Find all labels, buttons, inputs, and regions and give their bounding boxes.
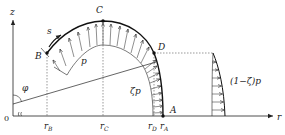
z-axis-label: z xyxy=(9,7,15,17)
guide-lines xyxy=(47,21,213,116)
axes xyxy=(13,20,273,116)
axis-break-icon xyxy=(18,112,21,116)
pressure-label: p xyxy=(81,56,87,66)
angle-label: φ xyxy=(22,83,29,93)
shell-diagram: z r 0 B C D A s φ p ζp (1−ζ)p rB rC rD r… xyxy=(0,0,285,135)
point-C xyxy=(101,19,104,22)
outer-pressure-distribution xyxy=(212,53,225,116)
point-B xyxy=(45,51,48,54)
rB-label: rB xyxy=(44,121,53,132)
arc-coordinate-arrow xyxy=(49,35,61,47)
rC-label: rC xyxy=(100,121,109,132)
outer-pressure-label: (1−ζ)p xyxy=(230,76,261,86)
shell-points xyxy=(45,19,164,117)
rA-label: rA xyxy=(160,121,169,132)
pressure-envelope-p xyxy=(54,45,143,75)
angle-arc-icon xyxy=(13,95,22,102)
rD-label: rD xyxy=(148,121,157,132)
inner-pressure-label: ζp xyxy=(130,86,141,96)
outer-pressure-envelope xyxy=(213,53,225,116)
point-A xyxy=(161,114,164,117)
meridian-normal-line xyxy=(13,62,156,104)
pressure-envelope-zeta-p xyxy=(143,66,153,116)
point-B-label: B xyxy=(34,51,42,61)
point-D-label: D xyxy=(157,42,165,52)
point-D xyxy=(152,51,155,54)
outer-pressure-left xyxy=(212,53,213,116)
r-axis-label: r xyxy=(277,112,282,122)
arc-coordinate-label: s xyxy=(47,26,52,36)
origin-label: 0 xyxy=(4,114,9,123)
point-C-label: C xyxy=(96,5,103,15)
point-A-label: A xyxy=(169,105,177,115)
